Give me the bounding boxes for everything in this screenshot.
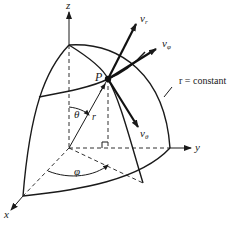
v-phi-label: vφ (162, 37, 171, 51)
sphere-octant-outline (23, 45, 170, 196)
point-p (105, 76, 111, 82)
v-theta-vector (108, 79, 138, 127)
unit-vectors (108, 24, 156, 127)
spherical-coordinates-diagram: z y x P r θ φ vr vφ vθ r = constant (0, 0, 235, 225)
surface-leader-line (164, 87, 172, 97)
v-r-label: vr (140, 12, 148, 26)
radius-label: r (92, 111, 96, 122)
theta-label: θ (74, 108, 80, 120)
construction-lines (69, 79, 143, 183)
x-axis-label: x (3, 208, 9, 220)
x-axis (11, 148, 69, 210)
point-p-label: P (94, 70, 103, 84)
phi-label: φ (74, 165, 80, 177)
y-axis-label: y (194, 141, 200, 153)
v-theta-label: vθ (140, 127, 149, 141)
z-axis-label: z (65, 0, 71, 11)
surface-label: r = constant (179, 75, 227, 86)
